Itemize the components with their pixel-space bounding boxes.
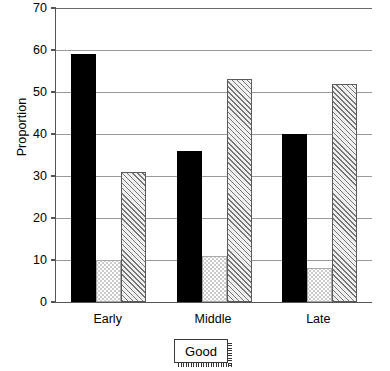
- bar-early-series-3: [121, 172, 146, 302]
- bar-early-series-1: [71, 54, 96, 302]
- bar-middle-series-3: [227, 79, 252, 302]
- bar-late-series-2: [307, 268, 332, 302]
- legend-box[interactable]: Good: [174, 339, 228, 363]
- bar-chart: Proportion 010203040506070 Good EarlyMid…: [0, 0, 390, 371]
- bar-middle-series-2: [202, 256, 227, 302]
- y-tick-mark: [51, 91, 56, 92]
- legend-shadow-bottom: [178, 363, 232, 367]
- y-tick-mark: [51, 7, 56, 8]
- gridline: [56, 176, 372, 177]
- y-tick-label: 10: [33, 253, 47, 267]
- bar-middle-series-1: [177, 151, 202, 302]
- x-category-label-middle: Middle: [195, 312, 232, 326]
- y-tick-mark: [51, 175, 56, 176]
- gridline: [56, 8, 372, 9]
- bar-late-series-3: [332, 84, 357, 302]
- y-tick-mark: [51, 217, 56, 218]
- y-tick-mark: [51, 259, 56, 260]
- plot-inner: 010203040506070: [56, 8, 372, 302]
- plot-area: 010203040506070: [55, 8, 372, 303]
- y-axis-title: Proportion: [15, 67, 29, 187]
- y-tick-label: 70: [33, 1, 47, 15]
- gridline: [56, 134, 372, 135]
- bar-early-series-2: [96, 260, 121, 302]
- gridline: [56, 50, 372, 51]
- y-tick-mark: [51, 301, 56, 302]
- y-tick-label: 40: [33, 127, 47, 141]
- y-tick-mark: [51, 133, 56, 134]
- x-category-label-early: Early: [93, 312, 121, 326]
- gridline: [56, 92, 372, 93]
- y-tick-label: 60: [33, 43, 47, 57]
- y-tick-label: 30: [33, 169, 47, 183]
- y-tick-label: 0: [40, 295, 47, 309]
- x-category-label-late: Late: [306, 312, 330, 326]
- y-tick-label: 50: [33, 85, 47, 99]
- y-tick-label: 20: [33, 211, 47, 225]
- gridline: [56, 218, 372, 219]
- legend-label: Good: [185, 344, 217, 359]
- bar-late-series-1: [282, 134, 307, 302]
- y-tick-mark: [51, 49, 56, 50]
